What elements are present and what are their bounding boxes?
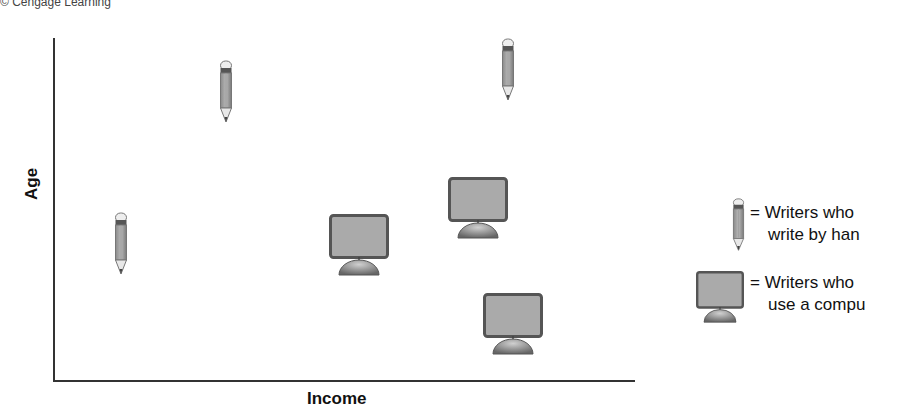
pencil-icon xyxy=(114,212,128,276)
x-axis-label: Income xyxy=(307,389,367,409)
legend-computer-line2: use a compu xyxy=(768,295,865,315)
copyright-credit: © Cengage Learning xyxy=(0,0,111,9)
legend-hand-line2: write by han xyxy=(768,225,860,245)
y-axis-label: Age xyxy=(22,168,42,200)
legend-item-hand: = Writers who write by han xyxy=(750,203,903,247)
pencil-icon xyxy=(501,38,515,102)
computer-icon xyxy=(448,177,508,239)
legend-item-computer: = Writers who use a compu xyxy=(750,273,903,317)
legend-computer-line1: = Writers who xyxy=(750,273,854,293)
legend-hand-line1: = Writers who xyxy=(750,203,854,223)
y-axis xyxy=(53,38,55,382)
computer-icon xyxy=(329,214,389,276)
legend-pencil-icon xyxy=(732,198,745,252)
legend-computer-icon xyxy=(696,271,744,323)
x-axis xyxy=(53,380,635,382)
computer-icon xyxy=(483,293,543,355)
pencil-icon xyxy=(219,60,233,124)
